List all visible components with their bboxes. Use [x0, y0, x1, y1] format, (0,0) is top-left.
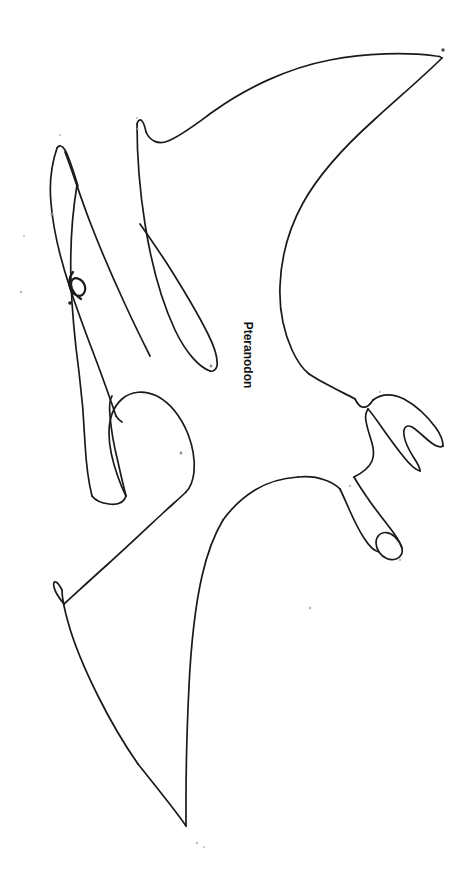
upper-wing-trailing-edge	[280, 58, 442, 374]
lower-leg-to-body	[298, 477, 340, 489]
upper-leg-claw-inner	[368, 409, 420, 471]
body-back-line	[309, 374, 355, 399]
lower-wing-tip	[138, 764, 186, 826]
throat-line	[92, 496, 126, 504]
lower-wing-lobe-inner	[110, 396, 126, 496]
upper-leg-upper-edge	[373, 395, 443, 446]
pteranodon-line-drawing	[0, 0, 474, 881]
body-underside	[223, 477, 298, 520]
lower-leg-back-edge	[340, 489, 379, 552]
lower-wing-root-edge	[64, 492, 186, 604]
eye-pupil-icon	[68, 301, 72, 305]
upper-leg-lower-edge	[354, 409, 374, 477]
lower-leg-foot-loop	[376, 533, 402, 560]
shoulder-line	[116, 416, 122, 422]
upper-wing-finger-trailing-edge	[140, 224, 217, 371]
hip-notch	[355, 399, 373, 407]
lower-wing-trailing-edge	[186, 520, 223, 826]
upper-wing-notch	[137, 120, 146, 132]
coloring-page: Pteranodon	[0, 0, 474, 881]
lower-wing-leading-edge	[62, 590, 138, 764]
scan-specks	[20, 48, 445, 848]
upper-wing-finger-left-edge	[137, 124, 210, 371]
